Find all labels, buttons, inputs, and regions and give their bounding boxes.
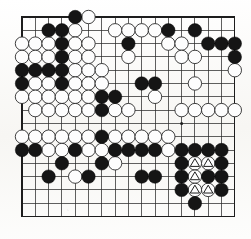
- black-stone[interactable]: [55, 157, 68, 170]
- white-stone[interactable]: [29, 130, 42, 143]
- white-stone[interactable]: [82, 50, 95, 63]
- black-stone[interactable]: [55, 50, 68, 63]
- black-stone[interactable]: [201, 37, 214, 50]
- black-stone[interactable]: [55, 77, 68, 90]
- black-stone[interactable]: [188, 24, 201, 37]
- white-stone[interactable]: [122, 24, 135, 37]
- black-stone[interactable]: [215, 157, 228, 170]
- white-stone[interactable]: [148, 130, 161, 143]
- black-stone[interactable]: [95, 157, 108, 170]
- black-stone[interactable]: [201, 170, 214, 183]
- black-stone[interactable]: [228, 50, 241, 63]
- white-stone[interactable]: [68, 130, 81, 143]
- goban-canvas[interactable]: [0, 0, 251, 239]
- white-stone[interactable]: [148, 24, 161, 37]
- white-stone[interactable]: [68, 170, 81, 183]
- white-stone[interactable]: [42, 90, 55, 103]
- black-stone[interactable]: [201, 143, 214, 156]
- white-stone[interactable]: [135, 24, 148, 37]
- white-stone[interactable]: [15, 37, 28, 50]
- white-stone[interactable]: [68, 50, 81, 63]
- black-stone[interactable]: [42, 63, 55, 76]
- black-stone[interactable]: [108, 143, 121, 156]
- white-stone[interactable]: [29, 103, 42, 116]
- black-stone[interactable]: [162, 24, 175, 37]
- black-stone[interactable]: [188, 196, 201, 209]
- black-stone[interactable]: [122, 143, 135, 156]
- black-stone[interactable]: [15, 63, 28, 76]
- white-stone[interactable]: [148, 90, 161, 103]
- white-stone[interactable]: [42, 103, 55, 116]
- white-stone[interactable]: [188, 50, 201, 63]
- black-stone[interactable]: [228, 37, 241, 50]
- white-stone[interactable]: [15, 90, 28, 103]
- white-stone[interactable]: [55, 130, 68, 143]
- black-stone[interactable]: [215, 183, 228, 196]
- black-stone[interactable]: [55, 37, 68, 50]
- black-stone[interactable]: [68, 10, 81, 23]
- black-stone[interactable]: [95, 103, 108, 116]
- black-stone[interactable]: [122, 37, 135, 50]
- white-stone[interactable]: [162, 130, 175, 143]
- white-stone[interactable]: [228, 63, 241, 76]
- black-stone[interactable]: [95, 130, 108, 143]
- black-stone[interactable]: [148, 170, 161, 183]
- white-stone[interactable]: [175, 103, 188, 116]
- white-stone[interactable]: [108, 24, 121, 37]
- black-stone[interactable]: [135, 170, 148, 183]
- white-stone[interactable]: [162, 143, 175, 156]
- black-stone[interactable]: [42, 24, 55, 37]
- white-stone[interactable]: [15, 130, 28, 143]
- black-stone[interactable]: [215, 170, 228, 183]
- white-stone[interactable]: [95, 143, 108, 156]
- white-stone[interactable]: [55, 103, 68, 116]
- white-stone[interactable]: [55, 143, 68, 156]
- black-stone[interactable]: [188, 143, 201, 156]
- black-stone[interactable]: [215, 143, 228, 156]
- black-stone[interactable]: [175, 143, 188, 156]
- white-stone[interactable]: [95, 63, 108, 76]
- white-stone[interactable]: [29, 50, 42, 63]
- white-stone[interactable]: [82, 77, 95, 90]
- black-stone[interactable]: [15, 143, 28, 156]
- white-stone[interactable]: [42, 130, 55, 143]
- white-stone[interactable]: [122, 50, 135, 63]
- black-stone[interactable]: [42, 170, 55, 183]
- black-stone[interactable]: [68, 143, 81, 156]
- white-stone[interactable]: [42, 143, 55, 156]
- white-stone[interactable]: [228, 103, 241, 116]
- white-stone[interactable]: [68, 103, 81, 116]
- white-stone[interactable]: [42, 37, 55, 50]
- white-stone[interactable]: [108, 157, 121, 170]
- white-stone[interactable]: [68, 90, 81, 103]
- white-stone[interactable]: [42, 77, 55, 90]
- white-stone[interactable]: [122, 103, 135, 116]
- black-stone[interactable]: [95, 90, 108, 103]
- black-stone[interactable]: [148, 143, 161, 156]
- white-stone[interactable]: [135, 130, 148, 143]
- white-stone[interactable]: [82, 37, 95, 50]
- white-stone[interactable]: [162, 37, 175, 50]
- black-stone[interactable]: [108, 90, 121, 103]
- black-stone[interactable]: [29, 143, 42, 156]
- white-stone[interactable]: [15, 50, 28, 63]
- white-stone[interactable]: [82, 10, 95, 23]
- black-stone[interactable]: [148, 77, 161, 90]
- white-stone[interactable]: [82, 90, 95, 103]
- white-stone[interactable]: [108, 103, 121, 116]
- white-stone[interactable]: [55, 90, 68, 103]
- white-stone[interactable]: [82, 63, 95, 76]
- black-stone[interactable]: [135, 143, 148, 156]
- black-stone[interactable]: [55, 24, 68, 37]
- white-stone[interactable]: [95, 77, 108, 90]
- white-stone[interactable]: [122, 130, 135, 143]
- white-stone[interactable]: [68, 24, 81, 37]
- white-stone[interactable]: [188, 103, 201, 116]
- white-stone[interactable]: [82, 130, 95, 143]
- white-stone[interactable]: [42, 50, 55, 63]
- white-stone[interactable]: [29, 77, 42, 90]
- black-stone[interactable]: [55, 63, 68, 76]
- white-stone[interactable]: [29, 37, 42, 50]
- white-stone[interactable]: [82, 143, 95, 156]
- black-stone[interactable]: [175, 157, 188, 170]
